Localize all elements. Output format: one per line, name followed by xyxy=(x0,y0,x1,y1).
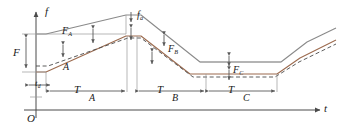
x-axis-label: t xyxy=(324,103,327,114)
force-c-label: FC xyxy=(233,65,243,75)
force-level-label: F xyxy=(13,47,20,58)
time-a-label: T xyxy=(74,84,80,95)
force-time-diagram: f t O F FA A fa FB FC td T A T B T C xyxy=(0,0,337,129)
time-measure-arrows xyxy=(29,85,275,91)
segment-a-label: A xyxy=(63,62,69,72)
force-measure-arrows xyxy=(26,12,229,80)
time-b-label: T xyxy=(157,84,163,95)
time-b-subscript: B xyxy=(172,93,178,103)
force-b-label: FB xyxy=(168,44,178,54)
force-a-label: FA xyxy=(62,26,72,36)
curve-upper-solid xyxy=(36,15,336,62)
y-axis-label: f xyxy=(45,6,48,17)
reference-lines xyxy=(22,15,281,97)
diagram-canvas xyxy=(0,0,337,129)
origin-label: O xyxy=(27,113,35,124)
time-a-subscript: A xyxy=(89,93,95,103)
time-c-subscript: C xyxy=(243,93,250,103)
time-c-label: T xyxy=(228,84,234,95)
peak-label: fa xyxy=(137,10,143,20)
delay-time-label: td xyxy=(35,79,40,88)
